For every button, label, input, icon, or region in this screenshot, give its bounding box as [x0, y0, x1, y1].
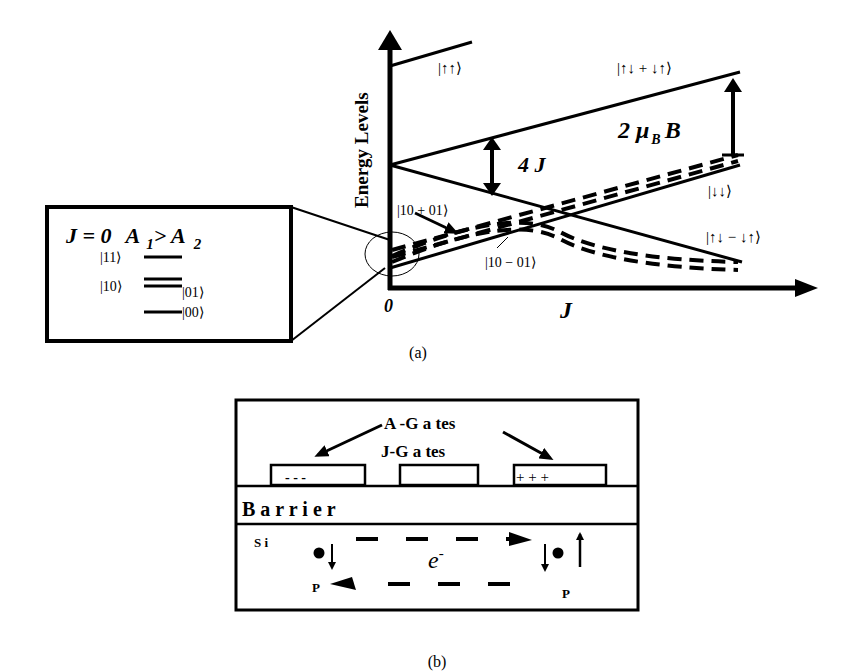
state-triplet0: |↑↓ + ↓↑⟩: [617, 60, 672, 76]
donor-left-label: P: [312, 580, 320, 595]
inset-level-00: |00⟩: [182, 305, 204, 320]
a-gates-label: A -G a tes: [384, 414, 456, 433]
caption-b: (b): [428, 653, 447, 671]
y-axis-arrow-icon: [378, 30, 402, 50]
j-gate: [400, 465, 478, 485]
j-gates-label: J-G a tes: [381, 442, 446, 461]
x-axis-label: J: [559, 297, 573, 323]
si-label: S i: [254, 535, 268, 550]
state-singlet: |↑↓ − ↓↑⟩: [706, 229, 761, 245]
left-gate-charge: - - -: [285, 470, 306, 485]
donor-right-dot: [553, 548, 564, 559]
donor-right-label: P: [562, 586, 570, 601]
right-gate-charge: + + +: [516, 469, 549, 485]
gap-zeeman-label: 2 μBB: [617, 117, 681, 147]
y-axis-label: Energy Levels: [351, 92, 372, 208]
gap-4j-label: 4 J: [517, 152, 547, 177]
state-up-up: |↑↑⟩: [438, 60, 462, 76]
inset-j0: J = 0A1> A2 |11⟩ |10⟩ |01⟩ |00⟩: [47, 207, 390, 341]
level-triplet0: [390, 72, 740, 165]
energy-level-plot: [365, 30, 818, 297]
figure: Energy Levels |↑↑⟩ |↑↓ + ↓↑⟩ |↓↓⟩ |↑↓ − …: [0, 0, 867, 672]
inset-title: J = 0A1> A2: [65, 223, 202, 252]
caption-a: (a): [409, 344, 427, 362]
inset-level-11: |11⟩: [100, 250, 121, 265]
state-minus: |10 − 01⟩: [485, 255, 536, 270]
inset-level-10: |10⟩: [100, 279, 122, 294]
donor-left-dot: [314, 548, 325, 559]
barrier-label: B a r r i e r: [242, 498, 336, 520]
x-axis-arrow-icon: [795, 279, 818, 297]
origin-label: 0: [384, 296, 393, 316]
minus-pointer-line: [497, 237, 508, 248]
state-down-down: |↓↓⟩: [708, 183, 732, 199]
state-plus: |10 + 01⟩: [397, 203, 448, 218]
inset-level-01: |01⟩: [182, 285, 204, 300]
